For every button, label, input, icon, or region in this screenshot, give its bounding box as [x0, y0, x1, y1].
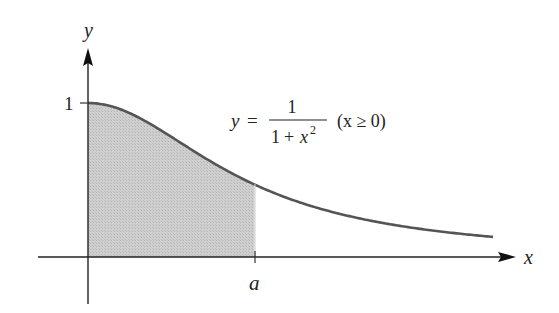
- equation-numerator: 1: [288, 97, 297, 117]
- y-tick-label: 1: [64, 93, 74, 114]
- shaded-area: [88, 103, 254, 257]
- equation: y = 1 1 + x 2 (x ≥ 0): [229, 97, 386, 147]
- equation-denominator-exp: 2: [310, 123, 316, 137]
- equation-lhs: y: [229, 110, 240, 131]
- area-under-curve-figure: y x 1 a y = 1 1 + x 2 (x ≥ 0): [0, 0, 559, 313]
- equation-denominator-plus: +: [284, 127, 294, 147]
- equation-denominator-x: x: [299, 127, 308, 147]
- equation-equals: =: [247, 110, 258, 131]
- equation-denominator-one: 1: [271, 127, 280, 147]
- x-axis-label: x: [523, 246, 533, 268]
- equation-condition: (x ≥ 0): [337, 111, 386, 132]
- y-axis-label: y: [82, 19, 93, 42]
- x-marker-label: a: [249, 271, 260, 295]
